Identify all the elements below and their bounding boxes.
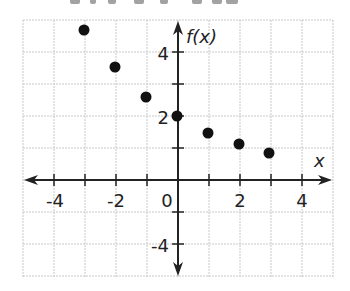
data-point — [141, 92, 152, 103]
x-tick-label: -4 — [46, 190, 64, 211]
y-tick-label: 2 — [158, 107, 169, 128]
y-tick-label: 4 — [158, 43, 169, 64]
data-point — [264, 148, 275, 159]
data-point — [79, 25, 90, 36]
function-graph: -4-202442-4 x f(x) — [0, 0, 350, 291]
data-point — [234, 139, 245, 150]
y-axis-label: f(x) — [186, 26, 217, 47]
x-tick-label: 2 — [234, 190, 245, 211]
x-tick-label: 4 — [296, 190, 307, 211]
data-points — [79, 25, 275, 159]
x-axis-label: x — [313, 150, 325, 171]
data-point — [203, 128, 214, 139]
y-tick-label: -4 — [151, 235, 169, 256]
data-point — [172, 111, 183, 122]
data-point — [110, 62, 121, 73]
x-tick-label: 0 — [161, 190, 172, 211]
x-tick-label: -2 — [107, 190, 125, 211]
